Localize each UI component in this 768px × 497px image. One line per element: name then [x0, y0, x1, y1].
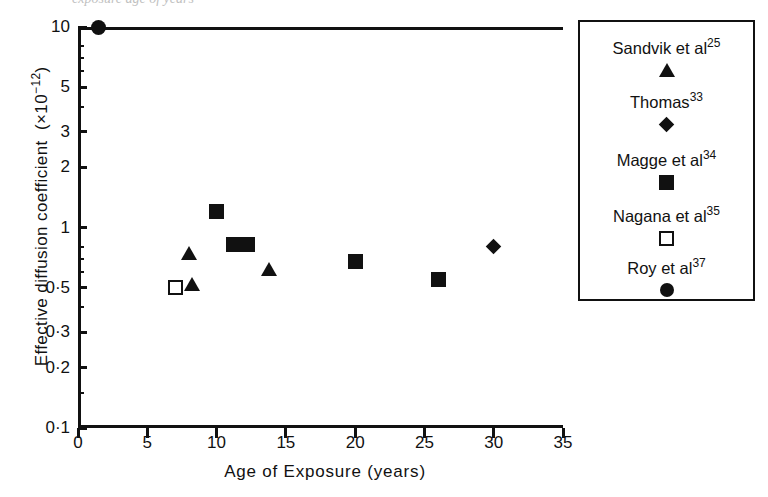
y-tick-minor-mark [78, 306, 84, 308]
legend-entry: Nagana et al35 [580, 202, 753, 248]
filled-square-marker-icon [431, 272, 446, 287]
triangle-marker-icon [659, 63, 675, 77]
legend: Sandvik et al25Thomas33Magge et al34Naga… [578, 20, 755, 301]
y-tick-label: 10 [8, 18, 70, 35]
y-tick-label: 0·3 [8, 323, 70, 340]
filled-circle-marker-icon [91, 20, 106, 35]
open-square-marker-icon [659, 231, 674, 246]
legend-entry-label: Sandvik et al25 [580, 34, 753, 58]
y-tick-minor-mark [78, 45, 84, 47]
x-tick-label: 5 [127, 434, 167, 452]
legend-entry: Thomas33 [580, 88, 753, 134]
y-tick-minor-mark [78, 70, 84, 72]
figure-scatter-plot: exposure age of years Effective diffusio… [0, 0, 768, 497]
filled-circle-marker-icon [660, 283, 674, 297]
y-tick-mark [78, 26, 87, 29]
x-tick-label: 20 [335, 434, 375, 452]
filled-square-marker-icon [209, 204, 224, 219]
x-tick-label: 25 [404, 434, 444, 452]
y-tick-minor-mark [78, 258, 84, 260]
legend-entry-label: Thomas33 [580, 88, 753, 112]
y-tick-minor-mark [78, 271, 84, 273]
legend-entry: Sandvik et al25 [580, 34, 753, 80]
legend-entry-reference: 34 [703, 148, 716, 162]
legend-entry-symbol [580, 281, 753, 300]
triangle-marker-icon [181, 246, 197, 260]
legend-entry: Magge et al34 [580, 146, 753, 192]
legend-entry-symbol [580, 61, 753, 80]
legend-entry-reference: 35 [707, 204, 720, 218]
caption-fragment: exposure age of years [72, 0, 392, 7]
y-tick-mark [78, 286, 87, 289]
legend-entry-symbol [580, 229, 753, 248]
x-tick-label: 35 [543, 434, 583, 452]
legend-entry-reference: 33 [690, 90, 703, 104]
y-tick-label: 0·5 [8, 279, 70, 296]
x-tick-label: 0 [58, 434, 98, 452]
y-tick-label: 1 [8, 219, 70, 236]
open-square-marker-icon [168, 280, 183, 295]
y-tick-minor-mark [78, 246, 84, 248]
triangle-marker-icon [261, 262, 277, 276]
legend-entry: Roy et al37 [580, 254, 753, 300]
x-tick-label: 10 [197, 434, 237, 452]
legend-entry-reference: 37 [692, 256, 705, 270]
legend-entry-label: Roy et al37 [580, 254, 753, 278]
y-tick-mark [78, 331, 87, 334]
diamond-marker-icon [659, 116, 675, 132]
filled-square-marker-icon [659, 175, 674, 190]
y-tick-minor-mark [78, 106, 84, 108]
legend-entry-label: Nagana et al35 [580, 202, 753, 226]
y-tick-label: 0·2 [8, 359, 70, 376]
y-tick-label: 2 [8, 158, 70, 175]
y-tick-label: 3 [8, 123, 70, 140]
legend-entry-symbol [580, 173, 753, 192]
x-axis-title: Age of Exposure (years) [150, 462, 500, 482]
filled-square-marker-icon [348, 254, 363, 269]
filled-square-marker-icon [240, 237, 255, 252]
legend-entry-reference: 25 [707, 36, 720, 50]
filled-square-marker-icon [226, 237, 241, 252]
plot-frame [78, 27, 563, 428]
y-tick-mark [78, 226, 87, 229]
legend-entry-symbol [580, 115, 753, 134]
y-tick-minor-mark [78, 57, 84, 59]
y-tick-minor-mark [78, 392, 84, 394]
y-tick-label: 5 [8, 78, 70, 95]
y-tick-mark [78, 130, 87, 133]
y-axis-title-text: Effective diffusion coefficient (×10−12) [31, 66, 50, 366]
y-tick-mark [78, 166, 87, 169]
x-tick-label: 30 [474, 434, 514, 452]
y-tick-mark [78, 86, 87, 89]
y-tick-mark [78, 366, 87, 369]
x-tick-label: 15 [266, 434, 306, 452]
triangle-marker-icon [184, 277, 200, 291]
legend-entry-label: Magge et al34 [580, 146, 753, 170]
